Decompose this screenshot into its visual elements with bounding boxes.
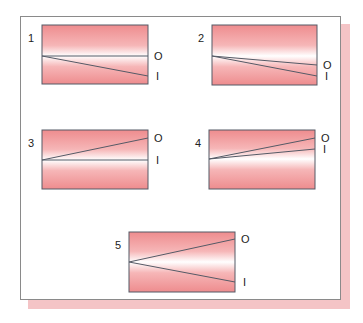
panel-box [209,130,315,189]
panel-2: 2OI [198,25,332,85]
panel-4: 4OI [195,130,330,189]
panel-1: 1OI [28,25,163,84]
label-i: I [156,70,159,82]
panel-number: 2 [198,32,204,44]
panel-box [129,232,235,292]
label-i: I [243,276,246,288]
label-o: O [154,132,163,144]
panel-box [212,25,317,85]
label-o: O [154,50,163,62]
label-o: O [241,233,250,245]
panel-box [42,25,148,84]
panel-number: 5 [115,239,121,251]
panel-number: 4 [195,137,201,149]
label-i: I [156,154,159,166]
o-i-diagram: 1OI2OI3OI4OI5OI [0,0,363,323]
label-i: I [325,70,328,82]
label-i: I [323,143,326,155]
panel-5: 5OI [115,232,250,292]
panel-number: 1 [28,32,34,44]
panel-number: 3 [28,137,34,149]
panel-3: 3OI [28,130,163,189]
